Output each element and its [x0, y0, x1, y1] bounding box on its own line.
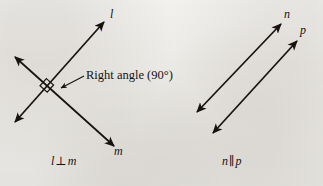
diagram-canvas — [0, 0, 323, 186]
parallel-operator-icon: ∥ — [228, 154, 236, 168]
perpendicular-relation-label: l⊥m — [51, 155, 76, 167]
callout-leader-line — [61, 76, 84, 88]
line-label-m: m — [114, 145, 123, 157]
parallel-relation-label: n∥p — [222, 155, 242, 167]
line-n — [197, 24, 281, 112]
perpendicular-operator-icon: ⊥ — [54, 154, 67, 168]
relation-operand-m: m — [68, 154, 77, 168]
line-label-n: n — [284, 8, 290, 20]
line-label-l: l — [110, 8, 113, 20]
line-label-p: p — [300, 24, 306, 36]
line-p — [213, 41, 297, 133]
right-angle-callout-text: Right angle (90°) — [86, 69, 173, 82]
geometry-figure: l m n p Right angle (90°) l⊥m n∥p — [0, 0, 323, 186]
relation-operand-p: p — [236, 154, 242, 168]
